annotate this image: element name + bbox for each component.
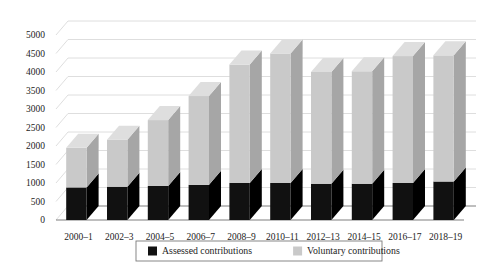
x-axis-tick-label: 2010–11 xyxy=(266,232,299,242)
bar-assessed-front xyxy=(189,185,209,220)
legend-swatch xyxy=(293,247,302,256)
bar-voluntary-side xyxy=(168,106,180,186)
bar-voluntary-front xyxy=(107,140,127,187)
x-axis-tick-label: 2004–5 xyxy=(146,232,175,242)
x-axis-tick-label: 2016–17 xyxy=(388,232,422,242)
x-axis-tick-label: 2006–7 xyxy=(187,232,216,242)
y-axis-labels: 5000450040003500300025002000150010005000 xyxy=(26,30,45,225)
bar-voluntary-side xyxy=(291,40,303,184)
gridline-riser xyxy=(56,58,68,72)
x-axis-tick-label: 2018–19 xyxy=(429,232,463,242)
y-axis-tick-label: 500 xyxy=(31,197,46,207)
legend-label: Voluntary contributions xyxy=(307,245,400,256)
y-axis-tick-label: 2000 xyxy=(26,141,45,151)
bar-voluntary-side xyxy=(372,57,384,183)
y-axis-tick-label: 4000 xyxy=(26,67,45,77)
bar-voluntary-side xyxy=(209,82,221,185)
bar-voluntary-side xyxy=(413,42,425,183)
bar-assessed-front xyxy=(311,184,331,220)
bar-group xyxy=(189,82,221,220)
bar-group xyxy=(107,126,139,220)
x-axis-tick-label: 2012–13 xyxy=(307,232,341,242)
y-axis-tick-label: 4500 xyxy=(26,49,45,59)
y-axis-tick-label: 0 xyxy=(40,215,45,225)
bar-voluntary-front xyxy=(148,120,168,186)
y-axis-tick-label: 1500 xyxy=(26,160,45,170)
gridline-riser xyxy=(56,95,68,109)
y-axis-tick-label: 5000 xyxy=(26,30,45,40)
x-axis-tick-label: 2002–3 xyxy=(105,232,134,242)
gridline-riser xyxy=(56,77,68,91)
bar-voluntary-front xyxy=(393,56,413,183)
bar-voluntary-side xyxy=(331,58,343,184)
bar-voluntary-front xyxy=(352,71,372,183)
gridline-riser xyxy=(56,40,68,54)
bar-assessed-front xyxy=(107,187,127,220)
x-axis-tick-label: 2008–9 xyxy=(227,232,256,242)
bar-group xyxy=(66,134,98,220)
bar-voluntary-front xyxy=(189,96,209,185)
legend-label: Assessed contributions xyxy=(162,245,252,256)
y-axis-tick-label: 3500 xyxy=(26,86,45,96)
bar-assessed-front xyxy=(270,183,290,220)
gridline-riser xyxy=(56,21,68,35)
x-axis-tick-label: 2014–15 xyxy=(347,232,381,242)
bar-voluntary-side xyxy=(250,51,262,183)
bar-group xyxy=(270,40,302,221)
bar-group xyxy=(148,106,180,220)
bar-chart: 5000450040003500300025002000150010005000… xyxy=(0,0,496,272)
bar-assessed-front xyxy=(148,186,168,220)
bar-voluntary-side xyxy=(454,41,466,181)
bar-voluntary-front xyxy=(229,65,249,183)
gridline-riser xyxy=(56,114,68,128)
bar-group xyxy=(311,58,343,220)
legend-swatch xyxy=(148,247,157,256)
bar-voluntary-front xyxy=(433,55,453,181)
gridline-riser xyxy=(56,132,68,146)
bar-group xyxy=(352,57,384,220)
y-axis-tick-label: 3000 xyxy=(26,104,45,114)
bar-series-group xyxy=(66,40,466,221)
bar-group xyxy=(433,41,465,220)
y-axis-tick-label: 2500 xyxy=(26,123,45,133)
bar-assessed-front xyxy=(393,183,413,220)
bar-voluntary-front xyxy=(66,148,86,188)
x-axis-tick-label: 2000–1 xyxy=(64,232,93,242)
bar-voluntary-front xyxy=(270,54,290,184)
y-axis-tick-label: 1000 xyxy=(26,178,45,188)
legend: Assessed contributionsVoluntary contribu… xyxy=(136,241,400,261)
bar-group xyxy=(393,42,425,220)
bar-assessed-front xyxy=(352,184,372,220)
bar-group xyxy=(229,51,261,220)
bar-assessed-front xyxy=(433,182,453,220)
bar-voluntary-front xyxy=(311,72,331,184)
chart-canvas: 5000450040003500300025002000150010005000… xyxy=(0,0,496,272)
bar-assessed-front xyxy=(66,187,86,220)
bar-assessed-front xyxy=(229,183,249,220)
